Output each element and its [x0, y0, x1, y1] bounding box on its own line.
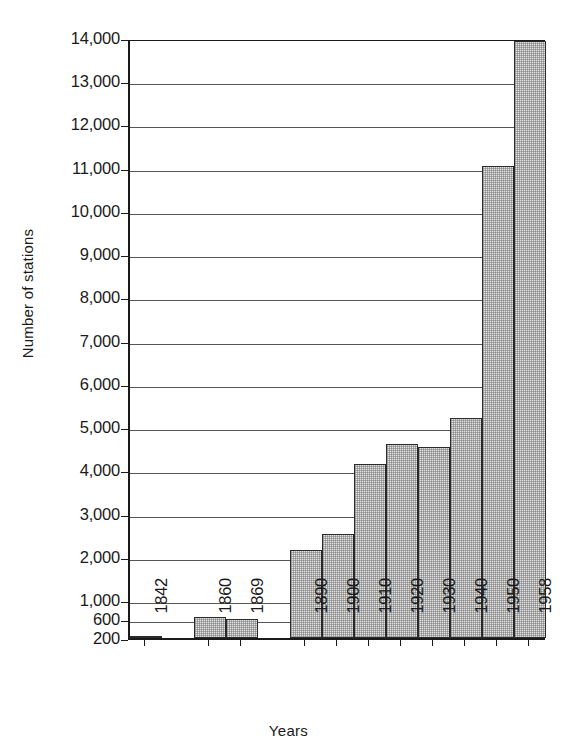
y-tick-mark: [121, 343, 128, 344]
x-tick-label-1920: 1920: [408, 578, 427, 648]
y-tick-label: 2,000: [0, 548, 120, 567]
plot-area: [128, 40, 545, 640]
x-tick-mark: [464, 640, 465, 646]
y-tick-label: 5,000: [0, 418, 120, 437]
x-tick-mark: [144, 640, 145, 646]
x-tick-mark: [432, 640, 433, 646]
y-tick-mark: [121, 83, 128, 84]
x-tick-mark: [336, 640, 337, 646]
y-tick-label: 600: [0, 610, 120, 629]
x-tick-mark: [496, 640, 497, 646]
y-tick-label: 8,000: [0, 288, 120, 307]
gridline: [130, 127, 544, 128]
y-tick-mark: [121, 640, 128, 641]
y-tick-mark: [121, 213, 128, 214]
y-tick-label: 10,000: [0, 202, 120, 221]
y-tick-label: 1,000: [0, 591, 120, 610]
y-tick-mark: [121, 516, 128, 517]
y-tick-label: 11,000: [0, 159, 120, 178]
y-tick-mark: [121, 170, 128, 171]
x-tick-label-1869: 1869: [248, 578, 267, 648]
y-tick-mark: [121, 602, 128, 603]
y-tick-label: 200: [0, 629, 120, 648]
x-tick-mark: [400, 640, 401, 646]
y-tick-mark: [121, 256, 128, 257]
y-tick-mark: [121, 472, 128, 473]
y-tick-mark: [121, 386, 128, 387]
bar-chart: Number of stations 2006001,0002,0003,000…: [0, 0, 577, 751]
y-tick-label: 3,000: [0, 505, 120, 524]
x-tick-mark: [240, 640, 241, 646]
x-tick-mark: [368, 640, 369, 646]
bar-1958: [514, 41, 546, 638]
bar-1950: [482, 166, 514, 638]
y-tick-mark: [121, 126, 128, 127]
y-tick-label: 7,000: [0, 332, 120, 351]
x-tick-mark: [304, 640, 305, 646]
gridline: [130, 84, 544, 85]
y-tick-label: 13,000: [0, 72, 120, 91]
y-tick-label: 14,000: [0, 29, 120, 48]
x-axis-title: Years: [0, 722, 577, 739]
y-tick-label: 12,000: [0, 115, 120, 134]
x-tick-label-1910: 1910: [376, 578, 395, 648]
y-tick-mark: [121, 429, 128, 430]
x-tick-label-1930: 1930: [440, 578, 459, 648]
y-tick-mark: [121, 621, 128, 622]
x-tick-label-1900: 1900: [344, 578, 363, 648]
y-tick-label: 4,000: [0, 461, 120, 480]
y-tick-mark: [121, 299, 128, 300]
x-tick-label-1950: 1950: [504, 578, 523, 648]
y-tick-label: 9,000: [0, 245, 120, 264]
y-tick-mark: [121, 40, 128, 41]
x-tick-label-1842: 1842: [152, 578, 171, 648]
x-tick-label-1860: 1860: [216, 578, 235, 648]
x-tick-mark: [528, 640, 529, 646]
x-tick-label-1940: 1940: [472, 578, 491, 648]
x-tick-label-1890: 1890: [312, 578, 331, 648]
y-tick-mark: [121, 559, 128, 560]
x-tick-label-1958: 1958: [536, 578, 555, 648]
x-tick-mark: [208, 640, 209, 646]
y-tick-label: 6,000: [0, 375, 120, 394]
